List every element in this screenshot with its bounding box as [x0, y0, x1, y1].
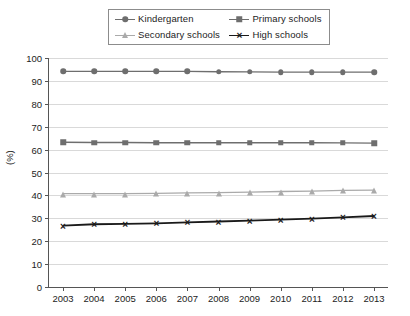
- y-tick-label: 50: [31, 167, 42, 178]
- data-point: [216, 69, 222, 75]
- line-chart: Kindergarten Primary schools Secondary s…: [0, 0, 410, 316]
- x-tick-label: 2006: [146, 293, 167, 304]
- data-point: [371, 69, 377, 75]
- data-point: ×: [152, 219, 161, 228]
- x-tick: [374, 287, 375, 291]
- legend-marker-square-icon: [229, 14, 249, 25]
- x-tick-label: 2003: [52, 293, 73, 304]
- x-tick: [343, 287, 344, 291]
- data-point: [122, 191, 128, 197]
- x-tick: [125, 287, 126, 291]
- data-point: [247, 69, 253, 75]
- series-lines: [49, 58, 388, 287]
- plot-area: 0102030405060708090100 20032004200520062…: [48, 58, 388, 288]
- data-point: [154, 69, 160, 75]
- legend-item-primary-schools[interactable]: Primary schools: [229, 14, 321, 25]
- data-point: [60, 140, 66, 146]
- y-tick-label: 70: [31, 121, 42, 132]
- data-point: [60, 69, 66, 75]
- data-point: [278, 69, 284, 75]
- y-tick-label: 30: [31, 213, 42, 224]
- data-point: [122, 140, 128, 146]
- data-point: [154, 140, 160, 146]
- data-point: ×: [307, 214, 316, 223]
- x-tick: [281, 287, 282, 291]
- y-tick-label: 20: [31, 236, 42, 247]
- y-tick-label: 0: [37, 282, 42, 293]
- data-point: [60, 191, 66, 197]
- data-point: [340, 69, 346, 75]
- data-point: ×: [338, 213, 347, 222]
- y-tick-label: 80: [31, 98, 42, 109]
- data-point: [216, 140, 222, 146]
- x-tick-label: 2009: [239, 293, 260, 304]
- legend-marker-cross-icon: ×: [229, 30, 249, 41]
- x-tick: [219, 287, 220, 291]
- x-tick: [250, 287, 251, 291]
- data-point: [340, 140, 346, 146]
- data-point: [91, 69, 97, 75]
- series-layer: ×××××××××××: [49, 58, 388, 287]
- legend-item-secondary-schools[interactable]: Secondary schools: [115, 30, 220, 41]
- legend-marker-triangle-icon: [115, 30, 135, 41]
- y-tick-label: 40: [31, 190, 42, 201]
- data-point: [122, 69, 128, 75]
- x-tick-label: 2012: [332, 293, 353, 304]
- data-point: [185, 69, 191, 75]
- x-tick-label: 2007: [177, 293, 198, 304]
- legend-item-high-schools[interactable]: × High schools: [229, 30, 308, 41]
- data-point: ×: [214, 217, 223, 226]
- data-point: ×: [121, 219, 130, 228]
- legend-label-secondary-schools: Secondary schools: [138, 30, 220, 40]
- data-point: [247, 190, 253, 196]
- x-tick-label: 2005: [115, 293, 136, 304]
- data-point: [247, 140, 253, 146]
- data-point: [278, 140, 284, 146]
- x-tick: [94, 287, 95, 291]
- x-tick: [63, 287, 64, 291]
- y-tick-label: 100: [26, 53, 42, 64]
- data-point: [216, 190, 222, 196]
- x-tick-label: 2013: [363, 293, 384, 304]
- legend-marker-circle-icon: [115, 14, 135, 25]
- data-point: [91, 140, 97, 146]
- x-tick: [187, 287, 188, 291]
- y-tick: [45, 287, 49, 288]
- data-point: [185, 140, 191, 146]
- data-point: [91, 191, 97, 197]
- x-tick-label: 2008: [208, 293, 229, 304]
- data-point: ×: [370, 212, 379, 221]
- data-point: ×: [276, 215, 285, 224]
- x-tick-label: 2004: [84, 293, 105, 304]
- data-point: [184, 190, 190, 196]
- cross-marker-icon: ×: [235, 31, 244, 40]
- legend-label-primary-schools: Primary schools: [252, 14, 321, 24]
- data-point: [371, 188, 377, 194]
- y-tick-label: 60: [31, 144, 42, 155]
- data-point: ×: [90, 220, 99, 229]
- x-tick: [156, 287, 157, 291]
- data-point: ×: [183, 218, 192, 227]
- y-axis-title: (%): [4, 150, 15, 165]
- data-point: [371, 140, 377, 146]
- data-point: [309, 140, 315, 146]
- triangle-marker-icon: [122, 32, 128, 38]
- y-tick-label: 90: [31, 75, 42, 86]
- data-point: ×: [59, 221, 68, 230]
- data-point: [340, 188, 346, 194]
- data-point: [309, 189, 315, 195]
- legend-label-kindergarten: Kindergarten: [138, 14, 194, 24]
- x-tick-label: 2010: [270, 293, 291, 304]
- data-point: [278, 189, 284, 195]
- square-marker-icon: [237, 16, 243, 22]
- data-point: [309, 69, 315, 75]
- data-point: ×: [245, 216, 254, 225]
- legend-item-kindergarten[interactable]: Kindergarten: [115, 14, 194, 25]
- x-tick-label: 2011: [302, 293, 322, 304]
- legend-label-high-schools: High schools: [252, 30, 308, 40]
- data-point: [153, 191, 159, 197]
- circle-marker-icon: [122, 16, 128, 22]
- chart-legend: Kindergarten Primary schools Secondary s…: [108, 9, 330, 45]
- y-tick-label: 10: [31, 259, 42, 270]
- x-tick: [312, 287, 313, 291]
